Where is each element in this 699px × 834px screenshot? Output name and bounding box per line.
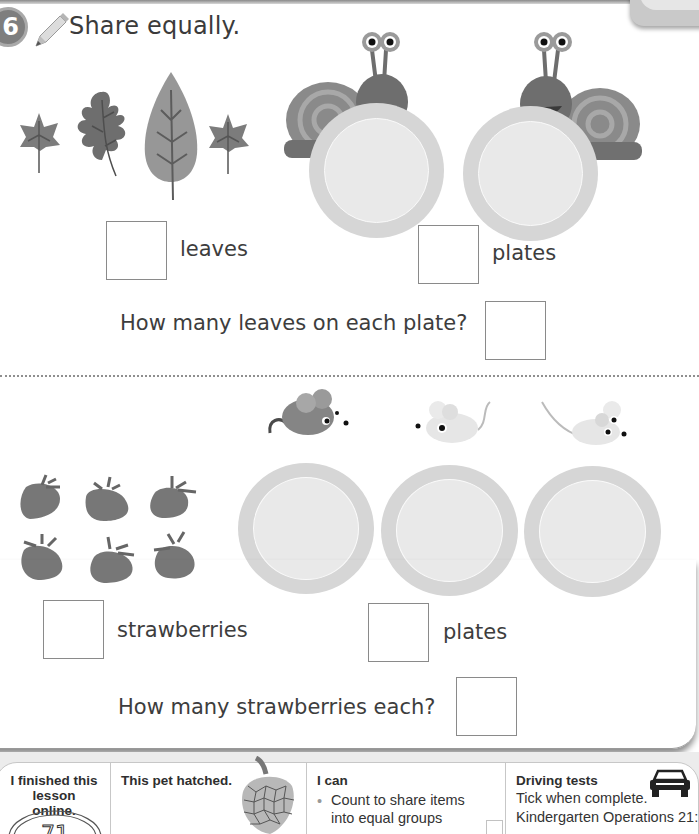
plate bbox=[309, 103, 444, 238]
mouse-icon bbox=[540, 400, 640, 448]
lesson-footer: I finished this lesson online. 71 This p… bbox=[0, 762, 699, 834]
plate bbox=[238, 463, 374, 594]
lesson-stamp-icon: 71 bbox=[7, 809, 103, 834]
strawberry-icon bbox=[16, 530, 72, 582]
plate bbox=[463, 106, 598, 241]
leaf-icon bbox=[16, 111, 62, 177]
leaf-icon bbox=[141, 70, 201, 204]
strawberries-each-question: How many strawberries each? bbox=[118, 695, 435, 719]
strawberries-label: strawberries bbox=[117, 618, 248, 642]
pet-heading: This pet hatched. bbox=[121, 773, 232, 788]
i-can-bullet-line2: into equal groups bbox=[331, 809, 465, 827]
section-divider bbox=[0, 375, 699, 377]
pet-egg-icon bbox=[238, 756, 298, 834]
leaves-each-question: How many leaves on each plate? bbox=[120, 311, 467, 335]
strawberry-icon bbox=[146, 474, 202, 524]
i-can-column: I can • Count to share items into equal … bbox=[307, 763, 506, 834]
driving-tests-instruction: Tick when complete. bbox=[516, 789, 648, 807]
pet-column: This pet hatched. bbox=[111, 763, 307, 834]
leaf-icon bbox=[205, 112, 251, 178]
car-icon bbox=[648, 767, 692, 799]
leaves-count-box[interactable] bbox=[106, 221, 167, 280]
driving-tests-column: Driving tests Tick when complete. Kinder… bbox=[506, 763, 699, 834]
strawberries-count-box[interactable] bbox=[43, 600, 104, 659]
plates-count-box[interactable] bbox=[418, 225, 479, 284]
pencil-icon bbox=[30, 10, 70, 50]
strawberry-icon bbox=[150, 530, 206, 582]
question-number-badge: 6 bbox=[0, 7, 28, 47]
svg-text:71: 71 bbox=[41, 821, 69, 834]
strawberry-icon bbox=[16, 473, 68, 523]
online-heading-line1: I finished this bbox=[9, 773, 99, 788]
mouse-icon bbox=[266, 387, 350, 437]
leaf-icon bbox=[72, 88, 132, 188]
driving-tests-name: Kindergarten Operations 21: bbox=[516, 808, 698, 826]
online-column: I finished this lesson online. 71 bbox=[1, 763, 111, 834]
leaves-label: leaves bbox=[180, 237, 248, 261]
question-number: 6 bbox=[2, 13, 19, 41]
mouse-icon bbox=[408, 400, 492, 446]
i-can-bullet-line1: Count to share items bbox=[331, 791, 465, 809]
strawberry-icon bbox=[80, 475, 136, 525]
plates-count-box-2[interactable] bbox=[368, 603, 429, 662]
plate bbox=[381, 465, 518, 596]
bullet-icon: • bbox=[317, 792, 322, 810]
strawberries-each-answer-box[interactable] bbox=[456, 677, 517, 736]
i-can-heading: I can bbox=[317, 773, 348, 788]
top-border bbox=[0, 0, 699, 4]
plate bbox=[524, 466, 661, 597]
plates-label-2: plates bbox=[443, 620, 507, 644]
strawberry-icon bbox=[84, 533, 140, 585]
i-can-bullet-text: Count to share items into equal groups bbox=[331, 791, 465, 827]
leaves-each-answer-box[interactable] bbox=[485, 301, 546, 360]
driving-tests-heading: Driving tests bbox=[516, 773, 598, 788]
i-can-tickbox[interactable] bbox=[486, 820, 503, 834]
question-title: Share equally. bbox=[69, 12, 240, 40]
plates-label: plates bbox=[492, 241, 556, 265]
worksheet-page: 6 Share equally. bbox=[0, 0, 699, 834]
